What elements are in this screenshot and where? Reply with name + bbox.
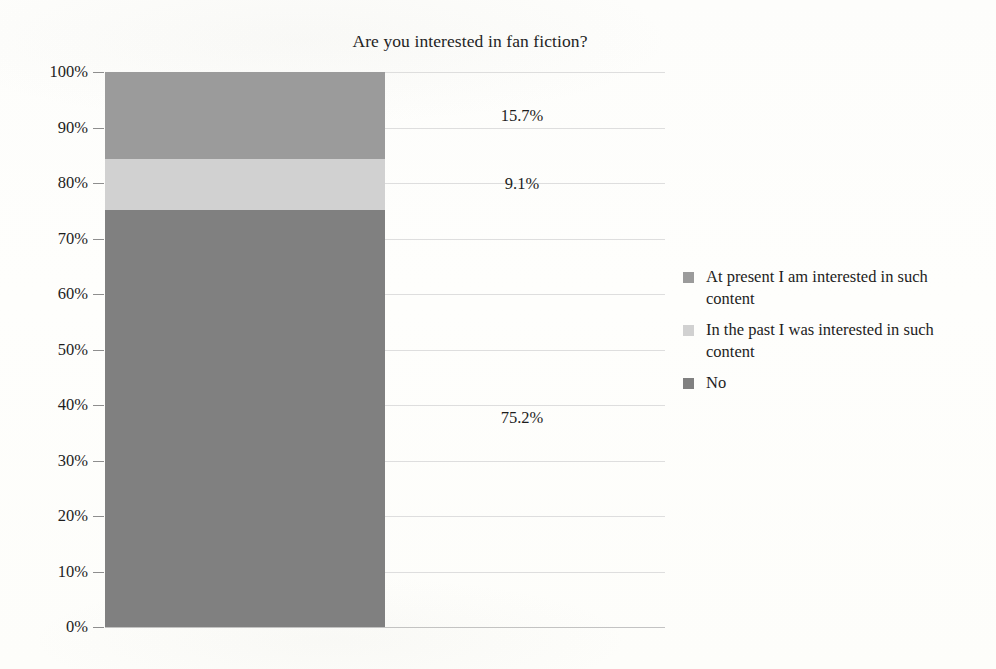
bar-segment[interactable] — [105, 210, 385, 627]
y-axis-tick-mark — [93, 183, 104, 184]
y-axis-tick-mark — [93, 239, 104, 240]
data-label: 75.2% — [462, 408, 582, 428]
legend-swatch-icon — [683, 272, 694, 283]
bar-segment[interactable] — [105, 72, 385, 159]
y-axis-tick-mark — [93, 572, 104, 573]
legend-item-label: At present I am interested in such conte… — [706, 266, 958, 310]
axis-baseline — [105, 627, 665, 628]
chart-title: Are you interested in fan fiction? — [0, 31, 940, 52]
legend-swatch-icon — [683, 325, 694, 336]
y-axis-tick-mark — [93, 405, 104, 406]
data-label: 15.7% — [462, 106, 582, 126]
y-axis-tick-mark — [93, 516, 104, 517]
y-axis-tick-mark — [93, 350, 104, 351]
bar-segment[interactable] — [105, 159, 385, 210]
y-axis-tick-marks — [0, 72, 105, 627]
y-axis-tick-mark — [93, 461, 104, 462]
y-axis-tick-mark — [93, 128, 104, 129]
y-axis-tick-mark — [93, 72, 104, 73]
y-axis-tick-mark — [93, 627, 104, 628]
data-label: 9.1% — [462, 174, 582, 194]
plot-area: 15.7%9.1%75.2% — [105, 72, 665, 627]
y-axis-tick-mark — [93, 294, 104, 295]
legend-item-label: In the past I was interested in such con… — [706, 319, 958, 363]
legend-item[interactable]: In the past I was interested in such con… — [683, 319, 973, 363]
stacked-bar[interactable] — [105, 72, 385, 627]
chart-figure: Are you interested in fan fiction? 100%9… — [0, 0, 996, 669]
legend-item-label: No — [706, 372, 726, 394]
legend-item[interactable]: No — [683, 372, 973, 394]
legend-item[interactable]: At present I am interested in such conte… — [683, 266, 973, 310]
chart-legend: At present I am interested in such conte… — [683, 266, 973, 404]
legend-swatch-icon — [683, 378, 694, 389]
